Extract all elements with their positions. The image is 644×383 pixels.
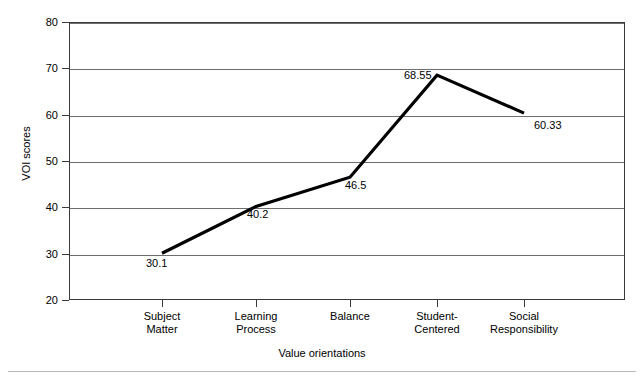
line-chart-figure: 80 70 60 50 40 30 20 VOI scores Subject … — [0, 0, 644, 383]
chart-screenshot: 80 70 60 50 40 30 20 VOI scores Subject … — [0, 0, 644, 383]
data-label-subject-matter: 30.1 — [146, 258, 167, 269]
caption-divider — [8, 371, 636, 372]
data-label-learning-process: 40.2 — [247, 209, 268, 220]
data-label-balance: 46.5 — [345, 180, 366, 191]
series-polyline — [162, 75, 524, 253]
figure-caption — [8, 374, 636, 383]
data-label-social-responsibility: 60.33 — [534, 120, 562, 131]
series-line-voi-scores — [0, 0, 644, 383]
data-label-student-centered: 68.55 — [404, 70, 432, 81]
